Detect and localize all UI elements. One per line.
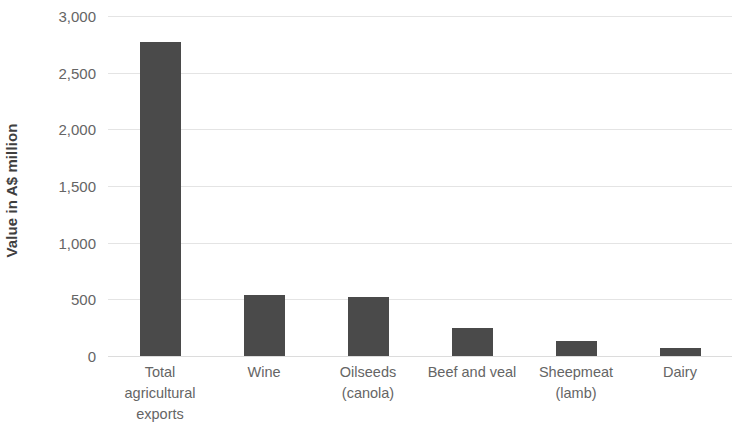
x-axis-category-label: Dairy: [628, 362, 732, 383]
x-axis-label-line: exports: [108, 404, 212, 425]
bar[interactable]: [140, 42, 181, 356]
y-axis-tick-label: 1,500: [0, 179, 96, 194]
y-axis-tick-label: 1,000: [0, 235, 96, 250]
x-axis-label-line: Sheepmeat: [524, 362, 628, 383]
y-axis-tick-label: 2,500: [0, 65, 96, 80]
y-axis-tick-label: 0: [0, 349, 96, 364]
y-axis-tick-label: 2,000: [0, 122, 96, 137]
x-axis-label-line: Beef and veal: [420, 362, 524, 383]
y-axis-tick-label: 500: [0, 292, 96, 307]
x-axis-label-line: (canola): [316, 383, 420, 404]
bar[interactable]: [244, 295, 285, 356]
x-axis-category-label: Wine: [212, 362, 316, 383]
bar[interactable]: [660, 348, 701, 356]
x-axis-category-label: Beef and veal: [420, 362, 524, 383]
y-axis-tick-label: 3,000: [0, 9, 96, 24]
bars-layer: [108, 16, 732, 356]
x-axis-label-line: (lamb): [524, 383, 628, 404]
x-axis-label-line: agricultural: [108, 383, 212, 404]
y-axis-tick-labels: 05001,0001,5002,0002,5003,000: [0, 0, 96, 380]
x-axis-label-line: Oilseeds: [316, 362, 420, 383]
x-axis-category-labels: TotalagriculturalexportsWineOilseeds(can…: [108, 362, 732, 447]
x-axis-label-line: Total: [108, 362, 212, 383]
x-axis-label-line: Dairy: [628, 362, 732, 383]
x-axis-label-line: Wine: [212, 362, 316, 383]
x-axis-category-label: Totalagriculturalexports: [108, 362, 212, 425]
x-axis-category-label: Sheepmeat(lamb): [524, 362, 628, 404]
gridline: [108, 356, 732, 357]
x-axis-category-label: Oilseeds(canola): [316, 362, 420, 404]
bar[interactable]: [452, 328, 493, 356]
bar[interactable]: [556, 341, 597, 356]
bar[interactable]: [348, 297, 389, 356]
bar-chart: Value in A$ million 05001,0001,5002,0002…: [0, 0, 732, 447]
